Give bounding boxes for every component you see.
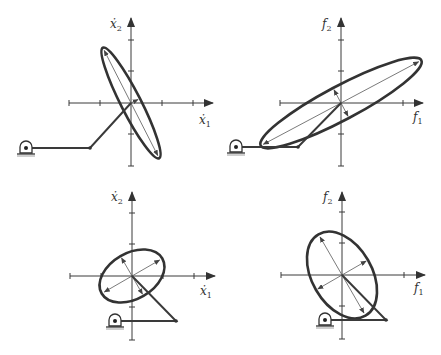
- y-axis: [128, 18, 134, 166]
- x-axis: [70, 273, 215, 279]
- y-axis-label: f2: [322, 190, 333, 206]
- x-axis-label: f1: [413, 281, 424, 297]
- y-axis-label: f2: [321, 17, 332, 33]
- panel-velocity-top-left: ẋ2 ẋ1: [17, 17, 213, 166]
- manipulability-figure: ẋ2 ẋ1 f2 f1: [0, 0, 441, 355]
- planar-arm-linkage: [17, 103, 131, 156]
- base-pin-joint-icon: [227, 140, 245, 155]
- x-axis-label: ẋ1: [199, 113, 211, 129]
- planar-arm-linkage: [227, 103, 341, 155]
- x-axis-label: f1: [412, 110, 423, 126]
- y-axis-label: ẋ2: [110, 17, 122, 33]
- x-axis-label: ẋ1: [200, 284, 212, 300]
- panel-velocity-bottom-left: ẋ2 ẋ1: [70, 190, 215, 340]
- panel-force-bottom-right: f2 f1: [281, 190, 425, 339]
- y-axis-label: ẋ2: [111, 190, 123, 206]
- y-axis: [338, 18, 344, 166]
- panel-force-top-right: f2 f1: [227, 17, 429, 166]
- y-axis: [129, 192, 135, 340]
- base-pin-joint-icon: [17, 141, 35, 156]
- base-pin-joint-icon: [316, 313, 334, 328]
- base-pin-joint-icon: [106, 314, 124, 329]
- x-axis: [281, 272, 425, 278]
